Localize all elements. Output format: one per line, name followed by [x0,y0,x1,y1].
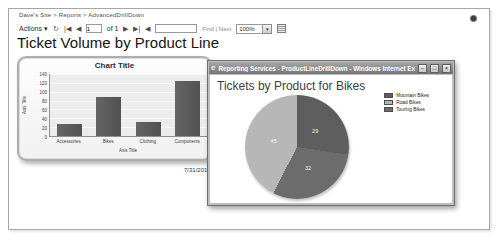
refresh-icon[interactable]: ↻ [53,25,59,33]
page-title: Ticket Volume by Product Line [17,34,219,51]
pie-legend: Mountain BikesRoad BikesTouring Bikes [384,93,429,112]
back-to-parent-icon[interactable]: ◀ [145,25,150,33]
category-label: Accessories [49,139,89,144]
legend-label: Touring Bikes [396,107,425,112]
popup-titlebar[interactable]: e Reporting Services - ProductLineDrillD… [209,62,453,74]
pie-slice-value: 32 [305,165,311,171]
bar-clothing[interactable] [136,122,161,136]
page-number-input[interactable] [86,24,102,33]
bar-chart-title: Chart Title [19,61,210,70]
find-next-separator: | [216,26,218,32]
bar-accessories[interactable] [57,124,82,136]
bar-chart-x-axis-title: Axis Title [49,148,207,153]
find-input[interactable] [155,24,197,33]
popup-window-title: Reporting Services - ProductLineDrillDow… [218,65,415,72]
legend-item: Road Bikes [384,100,429,105]
popup-content: Tickets by Product for Bikes Mountain Bi… [210,75,452,203]
bar-chart-category-labels: AccessoriesBikesClothingComponents [49,139,207,144]
legend-item: Touring Bikes [384,107,429,112]
legend-swatch [384,107,393,112]
bar-chart-panel: Chart Title Axis Title 14012010080604020… [17,56,212,161]
y-tick-label: 20 [27,126,47,131]
prev-page-icon[interactable]: ◀ [76,25,81,33]
bar-slot [50,74,89,136]
category-label: Clothing [128,139,168,144]
category-label: Components [168,139,208,144]
y-tick-label: 100 [27,90,47,95]
popup-window: e Reporting Services - ProductLineDrillD… [207,60,455,206]
last-page-icon[interactable]: ▶| [133,25,140,33]
legend-item: Mountain Bikes [384,93,429,98]
legend-label: Mountain Bikes [396,93,429,98]
next-link[interactable]: Next [219,26,231,32]
y-tick-label: 0 [27,135,47,140]
actions-menu-button[interactable]: Actions ▾ [19,25,48,33]
actions-label: Actions [19,25,42,32]
pie-slice-value: 29 [312,128,318,134]
of-pages-label: of 1 [107,25,119,32]
screen: Dave's Site > Reports > AdvancedDrillDow… [0,0,500,242]
zoom-select[interactable]: 100% ▾ [236,24,272,34]
zoom-dropdown-icon[interactable]: ▾ [263,24,272,34]
minimize-button[interactable]: – [418,64,427,73]
legend-label: Road Bikes [396,100,421,105]
legend-swatch [384,100,393,105]
bar-slot [129,74,168,136]
legend-swatch [384,93,393,98]
y-tick-label: 60 [27,108,47,113]
zoom-value: 100% [236,24,263,34]
find-link[interactable]: Find [202,26,214,32]
pie-slice-value: 45 [271,138,277,144]
first-page-icon[interactable]: |◀ [64,25,71,33]
maximize-button[interactable]: □ [430,64,439,73]
bar-slot [89,74,128,136]
bar-slot [168,74,207,136]
bar-chart-plot-area [49,74,207,137]
caret-down-icon: ▾ [44,25,48,32]
breadcrumb[interactable]: Dave's Site > Reports > AdvancedDrillDow… [19,12,144,18]
category-label: Bikes [89,139,129,144]
y-tick-label: 40 [27,117,47,122]
next-page-icon[interactable]: ▶ [123,25,128,33]
y-tick-label: 140 [27,72,47,77]
internet-explorer-icon: e [211,64,215,72]
y-tick-label: 80 [27,99,47,104]
y-tick-label: 120 [27,81,47,86]
pie-chart-title: Tickets by Product for Bikes [217,79,365,93]
settings-gear-icon[interactable] [470,15,477,22]
bar-bikes[interactable] [96,97,121,136]
pie-chart[interactable]: 293245 [245,95,349,199]
close-button[interactable]: × [442,64,451,73]
export-icon[interactable] [277,24,286,33]
bar-components[interactable] [175,81,200,136]
